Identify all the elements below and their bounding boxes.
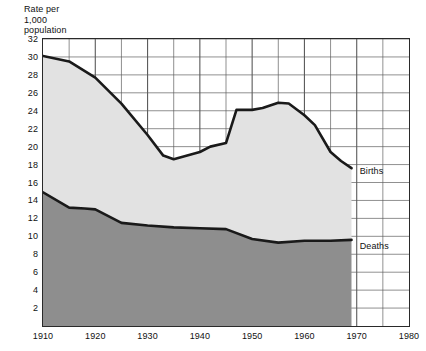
y-tick-label: 32: [4, 34, 38, 44]
y-tick-label: 4: [4, 285, 38, 295]
y-tick-label: 2: [4, 303, 38, 313]
plot-svg: [43, 39, 409, 326]
y-tick-label: 26: [4, 88, 38, 98]
y-tick-label: 16: [4, 178, 38, 188]
x-tick-label: 1980: [387, 331, 426, 341]
chart-axis-title: Rate per 1,000 population: [24, 4, 67, 36]
x-tick-label: 1940: [178, 331, 222, 341]
y-tick-label: 8: [4, 249, 38, 259]
x-axis-tick-labels: 19101920193019401950196019701980: [42, 331, 414, 347]
x-tick-label: 1970: [335, 331, 379, 341]
x-tick-label: 1920: [73, 331, 117, 341]
y-tick-label: 20: [4, 142, 38, 152]
x-tick-label: 1950: [230, 331, 274, 341]
birth-death-rate-chart: Rate per 1,000 population 24681012141618…: [0, 0, 426, 351]
y-tick-label: 14: [4, 195, 38, 205]
y-axis-tick-labels: 2468101214161820222426283032: [0, 38, 38, 327]
x-tick-label: 1960: [282, 331, 326, 341]
y-tick-label: 10: [4, 231, 38, 241]
series-label-deaths: Deaths: [360, 241, 389, 251]
y-tick-label: 12: [4, 213, 38, 223]
x-tick-label: 1930: [126, 331, 170, 341]
y-tick-label: 22: [4, 124, 38, 134]
y-tick-label: 24: [4, 106, 38, 116]
y-tick-label: 18: [4, 160, 38, 170]
y-tick-label: 28: [4, 70, 38, 80]
x-tick-label: 1910: [21, 331, 65, 341]
plot-area: Births Deaths: [42, 38, 410, 327]
y-tick-label: 30: [4, 52, 38, 62]
series-label-births: Births: [360, 166, 384, 176]
y-tick-label: 6: [4, 267, 38, 277]
